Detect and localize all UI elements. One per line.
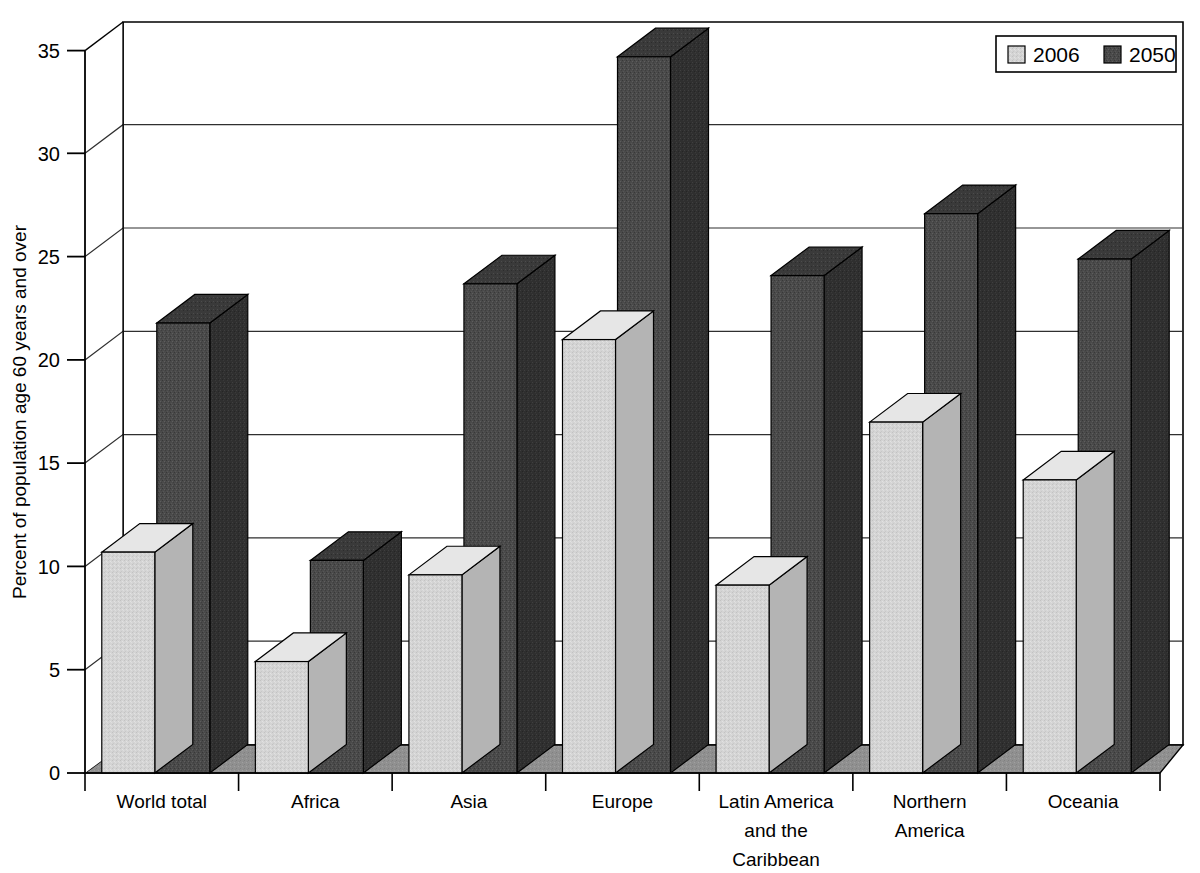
x-category-label-3: Europe: [592, 791, 653, 812]
y-tick-label-10: 10: [38, 556, 60, 578]
y-axis-tick-labels: 0 5 10 15 20 25 30 35: [38, 40, 60, 784]
y-axis-title: Percent of population age 60 years and o…: [9, 224, 30, 599]
x-category-label-0: World total: [117, 791, 207, 812]
bar-2006-oceania: [1023, 451, 1114, 773]
y-tick-label-25: 25: [38, 246, 60, 268]
bar-2006-africa: [255, 633, 346, 773]
chart-legend[interactable]: 2006 2050: [996, 36, 1176, 72]
x-category-label-2: Asia: [450, 791, 487, 812]
legend-label-2006: 2006: [1033, 43, 1080, 66]
bar-2006-world-total: [102, 524, 193, 773]
x-axis-ticks: [85, 773, 1160, 791]
legend-swatch-2050: [1104, 46, 1121, 63]
bar-2006-asia: [409, 546, 500, 773]
y-axis-ticks: [67, 51, 85, 773]
bar-2006-northern-america: [870, 394, 961, 773]
y-tick-label-20: 20: [38, 349, 60, 371]
y-tick-label-0: 0: [49, 762, 60, 784]
bar-2006-europe: [563, 311, 654, 773]
legend-swatch-2006: [1008, 46, 1025, 63]
x-category-label-4: Latin Americaand theCaribbean: [719, 791, 835, 870]
y-tick-label-15: 15: [38, 452, 60, 474]
y-tick-label-5: 5: [49, 659, 60, 681]
x-category-label-1: Africa: [291, 791, 340, 812]
y-tick-label-30: 30: [38, 143, 60, 165]
chart-canvas: 0 5 10 15 20 25 30 35 Percent of populat…: [0, 0, 1200, 873]
x-category-label-5: NorthernAmerica: [893, 791, 967, 841]
bar-2006-latin-america-and-the-caribbean: [716, 557, 807, 773]
bar-chart: 0 5 10 15 20 25 30 35 Percent of populat…: [0, 0, 1200, 873]
y-tick-label-35: 35: [38, 40, 60, 62]
x-category-label-6: Oceania: [1048, 791, 1119, 812]
legend-label-2050: 2050: [1129, 43, 1176, 66]
x-axis-category-labels: World totalAfricaAsiaEuropeLatin America…: [117, 791, 1119, 870]
